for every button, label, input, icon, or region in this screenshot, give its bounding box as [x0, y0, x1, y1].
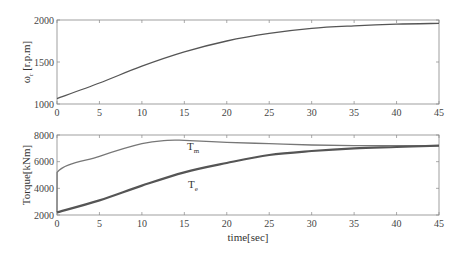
x-axis-label: time[sec]: [228, 231, 269, 243]
y-axis-label-speed: ωr [r.p.m]: [20, 41, 35, 83]
x-tick-label: 40: [392, 107, 402, 118]
y-tick-label: 6000: [34, 156, 54, 167]
x-tick-label: 20: [222, 218, 232, 229]
y-axis-label-torque: Torque[kNm]: [20, 145, 32, 205]
x-tick-label: 15: [179, 107, 189, 118]
annotation-tm: Tm: [187, 140, 200, 155]
annotation-te: Te: [188, 178, 198, 193]
x-tick-label: 45: [434, 107, 444, 118]
x-tick-label: 5: [97, 107, 102, 118]
x-tick-label: 20: [222, 107, 232, 118]
x-tick-label: 0: [55, 107, 60, 118]
x-tick-label: 15: [179, 218, 189, 229]
x-tick-label: 35: [349, 107, 359, 118]
x-tick-label: 45: [434, 218, 444, 229]
speed-plot: 051015202530354045100015002000: [34, 15, 444, 119]
x-tick-label: 35: [349, 218, 359, 229]
chart: 0510152025303540451000150020000510152025…: [0, 0, 462, 259]
y-tick-label: 2000: [34, 15, 54, 26]
series-line-1: [57, 146, 439, 213]
y-tick-label: 8000: [34, 130, 54, 141]
torque-plot: 0510152025303540452000400060008000: [34, 130, 444, 230]
x-tick-label: 10: [137, 107, 147, 118]
y-tick-label: 1500: [34, 57, 54, 68]
y-tick-label: 2000: [34, 210, 54, 221]
y-tick-label: 1000: [34, 99, 54, 110]
x-tick-label: 30: [307, 218, 317, 229]
x-tick-label: 40: [392, 218, 402, 229]
y-tick-label: 4000: [34, 183, 54, 194]
x-tick-label: 30: [307, 107, 317, 118]
series-line-0: [57, 140, 439, 212]
x-tick-label: 25: [264, 218, 274, 229]
x-tick-label: 0: [55, 218, 60, 229]
x-tick-label: 25: [264, 107, 274, 118]
x-tick-label: 10: [137, 218, 147, 229]
x-tick-label: 5: [97, 218, 102, 229]
series-line-0: [57, 23, 439, 98]
plot-frame: [57, 20, 439, 104]
